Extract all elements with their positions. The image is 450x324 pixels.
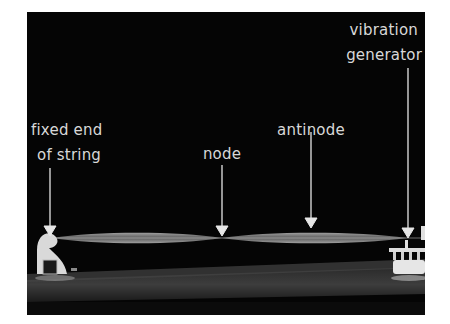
label-fixed-end: fixed end of string [31,118,102,168]
arrow-antinode [305,132,317,228]
arrow-generator [402,68,414,238]
label-generator-line2: generator [346,43,422,68]
vibrating-string [52,233,425,244]
label-vibration-generator: vibration generator [346,18,422,68]
label-antinode: antinode [271,118,351,143]
standing-wave-photo: fixed end of string node antinode vibrat… [27,12,425,315]
arrow-node [216,165,228,236]
label-fixed-end-line2: of string [31,143,102,168]
label-fixed-end-line1: fixed end [31,118,102,143]
label-node: node [199,142,245,167]
label-generator-line1: vibration [346,18,422,43]
arrow-fixed-end [44,168,56,236]
bench [27,259,425,315]
